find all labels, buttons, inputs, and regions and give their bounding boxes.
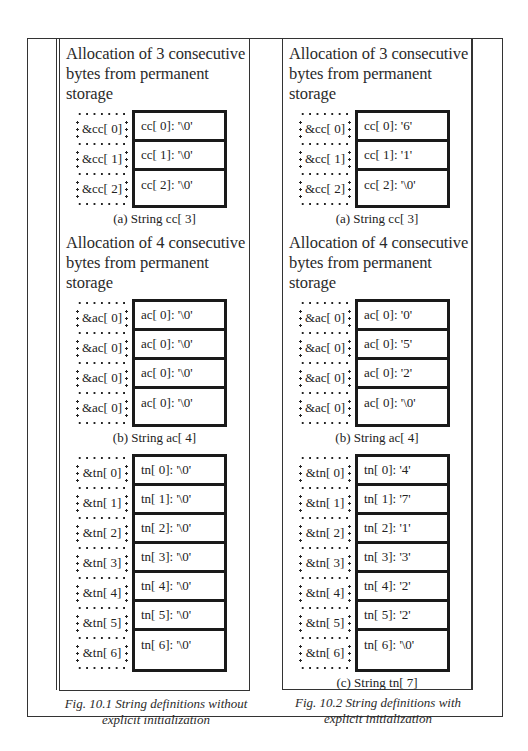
address-label: &tn[ 2] <box>299 522 351 544</box>
address-text: &ac[ 0] <box>79 400 125 416</box>
byte-cell: tn[ 2]: '\0' <box>135 515 224 544</box>
dotted-separator <box>76 419 128 427</box>
address-label: &ac[ 0] <box>299 337 351 359</box>
dotted-border-icon <box>125 338 128 358</box>
address-text: &ac[ 0] <box>302 400 348 416</box>
address-text: &tn[ 3] <box>79 555 125 571</box>
address-column: &ac[ 0]&ac[ 0]&ac[ 0]&ac[ 0] <box>76 299 128 427</box>
memory-section: Allocation of 4 consecutivebytes from pe… <box>283 233 471 446</box>
byte-cell: tn[ 6]: '\0' <box>358 631 447 658</box>
section-heading: Allocation of 4 consecutivebytes from pe… <box>66 233 249 293</box>
byte-cells: cc[ 0]: '\0'cc[ 1]: '\0'cc[ 2]: '\0' <box>132 110 227 208</box>
byte-cell: tn[ 4]: '2' <box>358 573 447 602</box>
address-label: &tn[ 1] <box>299 492 351 514</box>
dotted-separator <box>299 484 351 492</box>
address-label: &cc[ 0] <box>76 118 128 140</box>
address-text: &cc[ 2] <box>302 181 348 197</box>
byte-cell: ac[ 0]: '5' <box>358 331 447 360</box>
dotted-separator <box>76 299 128 307</box>
section-heading: Allocation of 4 consecutivebytes from pe… <box>289 233 471 293</box>
section-heading: Allocation of 3 consecutivebytes from pe… <box>66 44 249 104</box>
dotted-border-icon <box>125 583 128 603</box>
byte-cell: ac[ 0]: '\0' <box>358 389 447 416</box>
address-label: &ac[ 0] <box>76 307 128 329</box>
dotted-border-icon <box>348 179 351 199</box>
address-label: &tn[ 0] <box>299 462 351 484</box>
byte-cell: ac[ 0]: '\0' <box>135 302 224 331</box>
dotted-separator <box>76 170 128 178</box>
address-label: &ac[ 0] <box>299 367 351 389</box>
address-text: &ac[ 0] <box>79 370 125 386</box>
dotted-border-icon <box>348 613 351 633</box>
address-text: &ac[ 0] <box>302 340 348 356</box>
right-margin-divider <box>472 38 473 690</box>
dotted-separator <box>299 110 351 118</box>
dotted-border-icon <box>348 119 351 139</box>
caption-line-1: Fig. 10.1 String definitions without <box>60 696 252 712</box>
memory-section: Allocation of 3 consecutivebytes from pe… <box>283 44 471 227</box>
byte-cell: ac[ 0]: '\0' <box>135 331 224 360</box>
address-text: &tn[ 0] <box>302 465 348 481</box>
address-text: &tn[ 4] <box>79 585 125 601</box>
address-text: &ac[ 0] <box>302 310 348 326</box>
dotted-separator <box>299 359 351 367</box>
dotted-border-icon <box>348 523 351 543</box>
address-label: &tn[ 4] <box>299 582 351 604</box>
dotted-border-icon <box>125 643 128 663</box>
address-column: &ac[ 0]&ac[ 0]&ac[ 0]&ac[ 0] <box>299 299 351 427</box>
address-text: &cc[ 0] <box>79 121 125 137</box>
dotted-separator <box>76 604 128 612</box>
address-text: &cc[ 2] <box>79 181 125 197</box>
byte-cell: cc[ 2]: '\0' <box>358 171 447 198</box>
byte-cell: tn[ 5]: '\0' <box>135 602 224 631</box>
address-label: &ac[ 0] <box>299 397 351 419</box>
dotted-border-icon <box>125 493 128 513</box>
dotted-separator <box>76 359 128 367</box>
caption-line-2: explicit initialization <box>283 711 473 727</box>
address-label: &cc[ 1] <box>76 148 128 170</box>
address-text: &tn[ 4] <box>302 585 348 601</box>
address-label: &ac[ 0] <box>76 367 128 389</box>
dotted-border-icon <box>348 149 351 169</box>
address-label: &cc[ 2] <box>76 178 128 200</box>
dotted-border-icon <box>348 463 351 483</box>
byte-cells: ac[ 0]: '0'ac[ 0]: '5'ac[ 0]: '2'ac[ 0]:… <box>355 299 450 427</box>
address-text: &cc[ 0] <box>302 121 348 137</box>
figure-10-1-panel: Allocation of 3 consecutivebytes from pe… <box>59 38 250 691</box>
heading-line: Allocation of 4 consecutive <box>289 233 471 253</box>
byte-cell: tn[ 6]: '\0' <box>135 631 224 658</box>
address-column: &tn[ 0]&tn[ 1]&tn[ 2]&tn[ 3]&tn[ 4]&tn[ … <box>76 454 128 672</box>
heading-line: Allocation of 3 consecutive <box>66 44 249 64</box>
heading-line: bytes from permanent storage <box>289 253 471 293</box>
byte-cell: cc[ 2]: '\0' <box>135 171 224 198</box>
address-label: &cc[ 0] <box>299 118 351 140</box>
address-label: &tn[ 5] <box>299 612 351 634</box>
memory-grid: &tn[ 0]&tn[ 1]&tn[ 2]&tn[ 3]&tn[ 4]&tn[ … <box>76 454 249 672</box>
dotted-separator <box>299 574 351 582</box>
section-heading: Allocation of 3 consecutivebytes from pe… <box>289 44 471 104</box>
address-column: &tn[ 0]&tn[ 1]&tn[ 2]&tn[ 3]&tn[ 4]&tn[ … <box>299 454 351 672</box>
memory-grid: &tn[ 0]&tn[ 1]&tn[ 2]&tn[ 3]&tn[ 4]&tn[ … <box>299 454 471 672</box>
dotted-border-icon <box>125 308 128 328</box>
address-label: &ac[ 0] <box>76 397 128 419</box>
dotted-separator <box>299 604 351 612</box>
address-label: &tn[ 6] <box>76 642 128 664</box>
dotted-separator <box>76 664 128 672</box>
heading-line: Allocation of 4 consecutive <box>66 233 249 253</box>
dotted-separator <box>299 299 351 307</box>
byte-cells: tn[ 0]: '\0'tn[ 1]: '\0'tn[ 2]: '\0'tn[ … <box>132 454 227 672</box>
address-text: &tn[ 0] <box>79 465 125 481</box>
address-text: &cc[ 1] <box>302 151 348 167</box>
dotted-separator <box>76 544 128 552</box>
dotted-border-icon <box>125 613 128 633</box>
dotted-separator <box>76 110 128 118</box>
memory-grid: &cc[ 0]&cc[ 1]&cc[ 2]cc[ 0]: '\0'cc[ 1]:… <box>76 110 249 208</box>
dotted-separator <box>76 140 128 148</box>
byte-cell: ac[ 0]: '0' <box>358 302 447 331</box>
byte-cell: tn[ 2]: '1' <box>358 515 447 544</box>
byte-cell: cc[ 1]: '1' <box>358 142 447 171</box>
dotted-separator <box>76 634 128 642</box>
dotted-separator <box>76 484 128 492</box>
dotted-border-icon <box>348 368 351 388</box>
dotted-separator <box>299 634 351 642</box>
